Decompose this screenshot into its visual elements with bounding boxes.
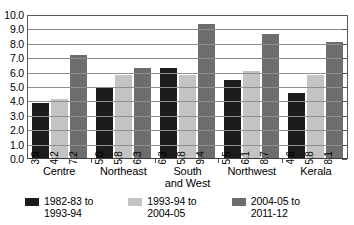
legend: 1982-83 to 1993-941993-94 to 2004-052004… <box>25 196 335 219</box>
gridline <box>28 58 347 59</box>
legend-swatch-icon <box>25 198 39 206</box>
x-axis-line <box>27 158 348 159</box>
legend-item[interactable]: 2004-05 to 2011-12 <box>232 196 335 219</box>
bar-fill <box>224 80 241 159</box>
cropped-title-strip <box>0 0 354 11</box>
bar-fill <box>262 34 279 159</box>
y-axis-tick <box>342 159 347 160</box>
y-axis-tick <box>342 73 347 74</box>
y-tick-label: 4.0 <box>10 96 24 107</box>
bar-fill <box>51 99 68 159</box>
y-axis-tick <box>342 101 347 102</box>
y-axis-tick <box>342 145 347 146</box>
legend-label: 2004-05 to 2011-12 <box>251 196 300 219</box>
category-label: Kerala <box>284 166 348 194</box>
gridline <box>28 130 347 131</box>
y-axis: 10.09.08.07.06.05.04.03.02.01.00.0 <box>0 11 26 163</box>
y-tick-label: 2.0 <box>10 125 24 136</box>
plot-wrapper: 10.09.08.07.06.05.04.03.02.01.00.0 3.94.… <box>0 11 354 163</box>
legend-swatch-icon <box>128 198 142 206</box>
y-axis-tick <box>342 87 347 88</box>
gridline <box>28 15 347 16</box>
gridline <box>28 44 347 45</box>
y-tick-label: 3.0 <box>10 111 24 122</box>
y-axis-tick <box>342 15 347 16</box>
y-axis-tick <box>342 29 347 30</box>
category-label: South and West <box>155 166 219 194</box>
legend-swatch-icon <box>232 198 246 206</box>
category-label: Northeast <box>91 166 155 194</box>
legend-label: 1982-83 to 1993-94 <box>44 196 93 219</box>
y-tick-label: 8.0 <box>10 39 24 50</box>
legend-item[interactable]: 1993-94 to 2004-05 <box>128 196 231 219</box>
category-tick <box>218 159 219 163</box>
bar-chart: 10.09.08.07.06.05.04.03.02.01.00.0 3.94.… <box>0 0 354 225</box>
category-tick <box>91 159 92 163</box>
category-label: Northwest <box>220 166 284 194</box>
gridline <box>28 73 347 74</box>
y-tick-label: 1.0 <box>10 139 24 150</box>
category-tick <box>282 159 283 163</box>
bar-fill <box>115 75 132 159</box>
y-axis-tick <box>342 44 347 45</box>
category-label: Centre <box>27 166 91 194</box>
bar-fill <box>70 55 87 159</box>
gridline <box>28 29 347 30</box>
category-tick <box>155 159 156 163</box>
legend-label: 1993-94 to 2004-05 <box>147 196 196 219</box>
legend-item[interactable]: 1982-83 to 1993-94 <box>25 196 128 219</box>
y-axis-tick <box>342 116 347 117</box>
y-tick-label: 10.0 <box>4 10 24 21</box>
y-axis-tick <box>342 130 347 131</box>
gridline <box>28 101 347 102</box>
y-tick-label: 0.0 <box>10 154 24 165</box>
bar-fill <box>179 75 196 159</box>
y-tick-label: 7.0 <box>10 53 24 64</box>
bar-fill <box>307 75 324 159</box>
bar-fill <box>96 87 113 159</box>
gridline <box>28 145 347 146</box>
y-tick-label: 6.0 <box>10 67 24 78</box>
y-axis-tick <box>342 58 347 59</box>
gridline <box>28 116 347 117</box>
plot-area: 3.94.27.25.05.86.36.35.89.45.56.18.74.65… <box>27 15 348 159</box>
bar-fill <box>288 93 305 159</box>
y-tick-label: 9.0 <box>10 24 24 35</box>
category-labels: CentreNortheastSouth and WestNorthwestKe… <box>27 166 348 194</box>
gridline <box>28 87 347 88</box>
y-tick-label: 5.0 <box>10 82 24 93</box>
